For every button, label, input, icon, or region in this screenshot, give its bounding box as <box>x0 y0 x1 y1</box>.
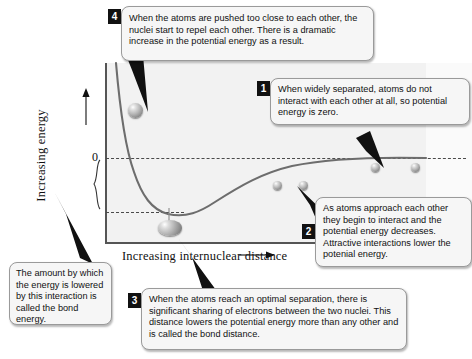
callout-2[interactable]: As atoms approach each other they begin … <box>315 197 472 267</box>
bond-energy-note-text: The amount by which the energy is lowere… <box>16 268 105 326</box>
atom-sphere-approach-a <box>273 181 282 190</box>
callout-1-text: When widely separated, atoms do not inte… <box>278 84 462 119</box>
bond-energy-brace <box>94 160 100 209</box>
callout-4-text: When the atoms are pushed too close to e… <box>129 13 366 48</box>
callout-2-text: As atoms approach each other they begin … <box>323 203 464 261</box>
callout-4[interactable]: When the atoms are pushed too close to e… <box>121 6 374 61</box>
atom-sphere-repulsive <box>128 103 143 118</box>
callout-3[interactable]: When the atoms reach an optimal separati… <box>141 288 407 350</box>
atom-sphere-separated-b <box>411 163 420 172</box>
callout-3-text: When the atoms reach an optimal separati… <box>149 294 399 340</box>
figure-canvas: Increasing energy 0 Increasing internucl… <box>0 0 472 359</box>
atom-sphere-approach-b <box>299 181 308 190</box>
callout-1-number: 1 <box>257 81 270 96</box>
y-axis-zero-tick: 0 <box>92 150 98 165</box>
callout-1[interactable]: When widely separated, atoms do not inte… <box>270 78 470 125</box>
bond-energy-note[interactable]: The amount by which the energy is lowere… <box>9 262 112 325</box>
y-axis-label: Increasing energy <box>34 91 49 221</box>
y-axis-arrow <box>82 88 89 125</box>
atom-sphere-pair-bonded <box>158 220 182 236</box>
pointer-callout-1 <box>356 131 384 168</box>
x-axis-label: Increasing internuclear distance <box>122 249 287 264</box>
callout-3-number: 3 <box>128 293 141 308</box>
atom-sphere-separated-a <box>371 163 380 172</box>
pointer-bond-energy <box>55 193 93 264</box>
callout-2-number: 2 <box>302 224 315 239</box>
callout-4-number: 4 <box>108 9 121 24</box>
